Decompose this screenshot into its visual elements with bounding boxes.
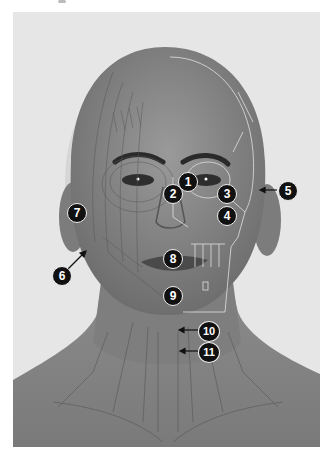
label-4: 4: [217, 206, 237, 226]
anatomy-photo: 1 2 3 4 5 6 7 8 9 10 11: [13, 12, 320, 447]
arrow-6: [67, 253, 84, 270]
label-2: 2: [163, 184, 183, 204]
label-6: 6: [52, 266, 72, 286]
page-fragment-mark: [58, 0, 66, 3]
label-8: 8: [163, 249, 183, 269]
label-5: 5: [278, 181, 298, 201]
label-3: 3: [217, 184, 237, 204]
label-9: 9: [163, 286, 183, 306]
label-11: 11: [198, 342, 220, 363]
label-10: 10: [198, 321, 220, 342]
label-arrows: [13, 12, 320, 447]
label-7: 7: [67, 203, 87, 223]
